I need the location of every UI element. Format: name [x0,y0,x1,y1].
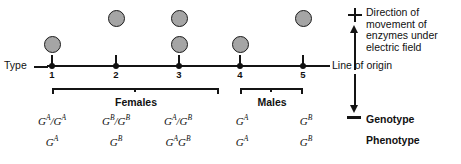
band-type3-upper [171,10,188,27]
phenotype-type4: GA [212,134,272,148]
band-type1-lower [44,36,61,53]
group-label-males: Males [232,96,312,108]
tick-label-3: 3 [172,69,186,80]
phenotype-type3: GAGB [148,134,208,148]
genotype-row-label: Genotype [366,113,414,125]
tick-label-1: 1 [45,69,59,80]
line-of-origin-label: Line of origin [332,59,392,71]
band-type4-lower [232,36,249,53]
phenotype-type5: GB [276,134,336,148]
tick-label-2: 2 [109,69,123,80]
group-label-females: Females [96,96,176,108]
tick-label-5: 5 [296,69,310,80]
genotype-type3: GA/GB [148,113,208,127]
genotype-type5: GB [276,113,336,127]
type-label-lead-line [34,66,48,68]
tick-label-4: 4 [233,69,247,80]
band-type5-upper [295,10,312,27]
band-type3-lower [171,36,188,53]
phenotype-row-label: Phenotype [366,134,420,146]
electrophoresis-diagram: Type 1 2 3 4 5 Direction of movement of … [0,0,461,164]
origin-axis-line [47,65,330,67]
arrow-down-icon [350,105,358,113]
phenotype-type2: GB [86,134,146,148]
genotype-type4: GA [212,113,272,127]
band-type2-upper [108,10,125,27]
phenotype-type1: GA [22,134,82,148]
plus-sign [348,8,362,22]
minus-sign [347,116,361,119]
genotype-type1: GA/GA [22,113,82,127]
genotype-type2: GB/GB [86,113,146,127]
type-axis-label: Type [4,59,27,71]
direction-legend-text: Direction of movement of enzymes under e… [366,7,438,53]
vertical-axis-lower [354,74,356,106]
